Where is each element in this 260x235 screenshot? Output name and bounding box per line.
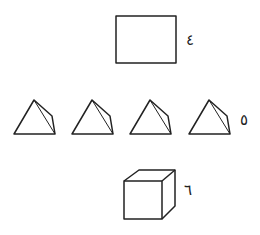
rectangle-shape [116, 16, 176, 63]
figure-label-5: ٥ [240, 113, 248, 128]
pyramid-shape [14, 100, 55, 134]
pyramid-shape [189, 100, 230, 134]
pyramid-shape [72, 100, 113, 134]
shapes-diagram [0, 0, 260, 235]
pyramid-shape [130, 100, 171, 134]
figure-label-6: ٦ [184, 183, 192, 198]
cube-shape [124, 170, 175, 219]
figure-label-4: ٤ [186, 33, 194, 48]
